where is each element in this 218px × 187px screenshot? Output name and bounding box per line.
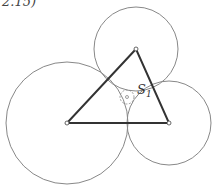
soddy-center-point bbox=[126, 96, 129, 99]
vertex-left bbox=[65, 121, 69, 125]
s1-label: S1 bbox=[137, 82, 152, 99]
vertex-top bbox=[134, 47, 138, 51]
tangent-circles-diagram: S1 bbox=[0, 0, 218, 187]
vertex-right bbox=[167, 121, 171, 125]
center-triangle bbox=[67, 49, 169, 123]
